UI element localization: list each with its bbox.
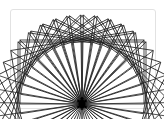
- turtle-drawing: [0, 0, 164, 119]
